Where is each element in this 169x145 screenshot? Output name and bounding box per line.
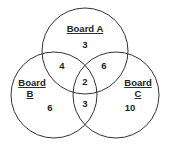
count-b-only: 6 xyxy=(47,102,52,113)
label-board-c-line2: C xyxy=(135,88,142,99)
circle-board-c xyxy=(73,52,159,138)
count-a-only: 3 xyxy=(82,39,87,50)
count-ab: 4 xyxy=(59,60,65,71)
label-board-b-line1: Board xyxy=(18,77,46,88)
circle-board-b xyxy=(11,52,97,138)
count-bc: 3 xyxy=(82,98,87,109)
count-abc: 2 xyxy=(82,76,87,87)
label-board-c-line1: Board xyxy=(124,77,152,88)
label-board-b-line2: B xyxy=(27,88,34,99)
count-c-only: 10 xyxy=(125,102,136,113)
count-ac: 6 xyxy=(101,60,106,71)
label-board-a: Board A xyxy=(67,23,104,34)
venn-diagram: Board A 3 Board B 6 Board C 10 4 6 2 3 xyxy=(0,0,169,145)
